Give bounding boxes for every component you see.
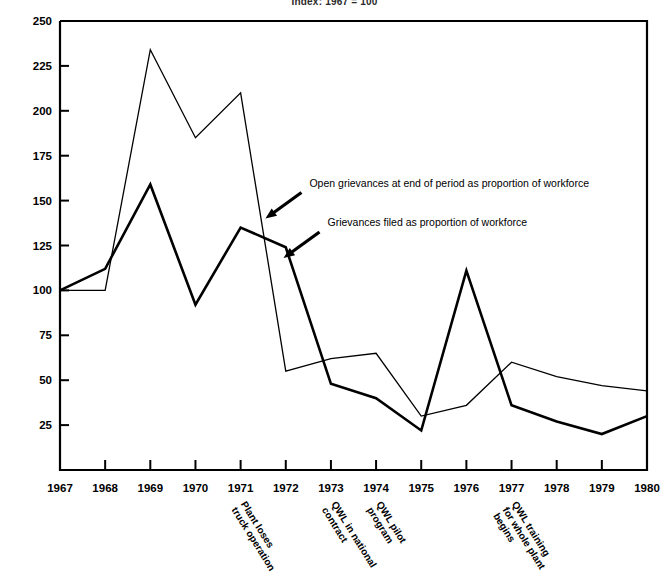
line-chart-canvas: 250225200175150125100755025 196719681969…: [0, 0, 669, 579]
y-axis-tick-labels: 250225200175150125100755025: [33, 15, 53, 431]
event-label-3: QWL trainingfor whole plantbegins: [491, 499, 557, 577]
y-axis-tick-label: 175: [33, 150, 53, 162]
x-axis-tick-label: 1972: [273, 482, 299, 494]
x-axis-tick-label: 1975: [408, 482, 434, 494]
x-axis-tick-label: 1970: [183, 482, 209, 494]
event-label-0: Plant losestruck operation: [230, 499, 287, 572]
y-axis-ticks: [60, 21, 69, 425]
annotation-label-1: Grievances filed as proportion of workfo…: [328, 216, 528, 228]
x-axis-tick-label: 1973: [318, 482, 344, 494]
x-axis-tick-label: 1978: [544, 482, 570, 494]
y-axis-tick-label: 125: [33, 240, 53, 252]
x-axis-tick-label: 1976: [454, 482, 480, 494]
series-annotations: Open grievances at end of period as prop…: [265, 177, 589, 259]
x-axis-ticks: [105, 460, 602, 470]
x-axis-tick-label: 1979: [589, 482, 615, 494]
chart-root: Index: 1967 = 100 2502252001751501251007…: [0, 0, 669, 579]
event-label-2: QWL pilotprogram: [365, 499, 409, 551]
y-axis-tick-label: 25: [39, 419, 52, 431]
series-line-0: [60, 50, 647, 416]
y-axis-tick-label: 150: [33, 195, 52, 207]
y-axis-tick-label: 250: [33, 15, 52, 27]
annotation-arrow-shaft-1: [291, 232, 320, 253]
y-axis-tick-label: 200: [33, 105, 52, 117]
y-axis-tick-label: 100: [33, 284, 52, 296]
x-axis-tick-label: 1969: [138, 482, 164, 494]
x-axis-tick-label: 1974: [363, 482, 389, 494]
x-axis-tick-label: 1967: [47, 482, 73, 494]
y-axis-tick-label: 50: [39, 374, 52, 386]
axis-frame: [60, 21, 647, 470]
data-series-group: [60, 50, 647, 434]
x-axis-tick-label: 1977: [499, 482, 525, 494]
x-axis-tick-label: 1971: [228, 482, 254, 494]
y-axis-tick-label: 225: [33, 60, 53, 72]
event-markers: Plant losestruck operationQWL in nationa…: [230, 499, 558, 577]
x-axis-tick-label: 1968: [92, 482, 118, 494]
x-axis-tick-labels: 1967196819691970197119721973197419751976…: [47, 482, 660, 494]
y-axis-tick-label: 75: [39, 329, 52, 341]
annotation-arrow-shaft-0: [272, 193, 301, 214]
annotation-label-0: Open grievances at end of period as prop…: [309, 177, 589, 189]
x-axis-tick-label: 1980: [634, 482, 660, 494]
